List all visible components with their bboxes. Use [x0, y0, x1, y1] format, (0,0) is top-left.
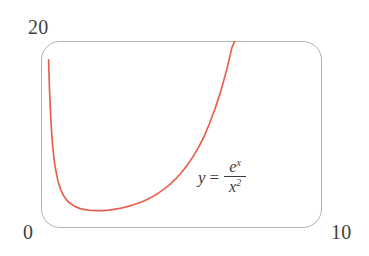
equation-numerator-exponent: x	[236, 157, 240, 168]
equation-annotation: y = ex x2	[198, 158, 246, 198]
y-axis-max-label: 20	[28, 17, 49, 37]
x-axis-min-label: 0	[23, 222, 33, 242]
equation-numerator: ex	[226, 157, 244, 176]
equation-denominator-exponent: 2	[236, 177, 241, 188]
equation-lhs: y	[198, 169, 208, 186]
plot-figure: 20 0 10 y = ex x2	[0, 0, 369, 256]
x-axis-max-label: 10	[331, 222, 352, 242]
equation-fraction: ex x2	[224, 157, 246, 197]
equation-equals-sign: =	[208, 169, 225, 186]
curve-svg	[0, 0, 369, 256]
equation-denominator: x2	[226, 177, 244, 196]
curve-layer	[0, 0, 369, 256]
